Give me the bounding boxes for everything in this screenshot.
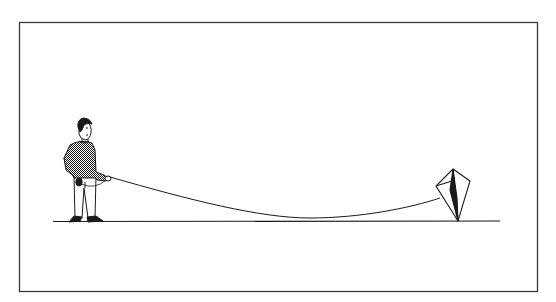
- picture-frame: [20, 23, 538, 292]
- kite-string: [110, 177, 440, 218]
- left-shoe: [69, 216, 82, 222]
- person: [64, 118, 111, 222]
- sweater: [64, 141, 108, 181]
- string-reel: [76, 178, 82, 186]
- kite: [436, 169, 470, 221]
- kite-illustration: [0, 0, 556, 302]
- ground-line: [53, 221, 500, 222]
- right-shoe: [87, 216, 103, 222]
